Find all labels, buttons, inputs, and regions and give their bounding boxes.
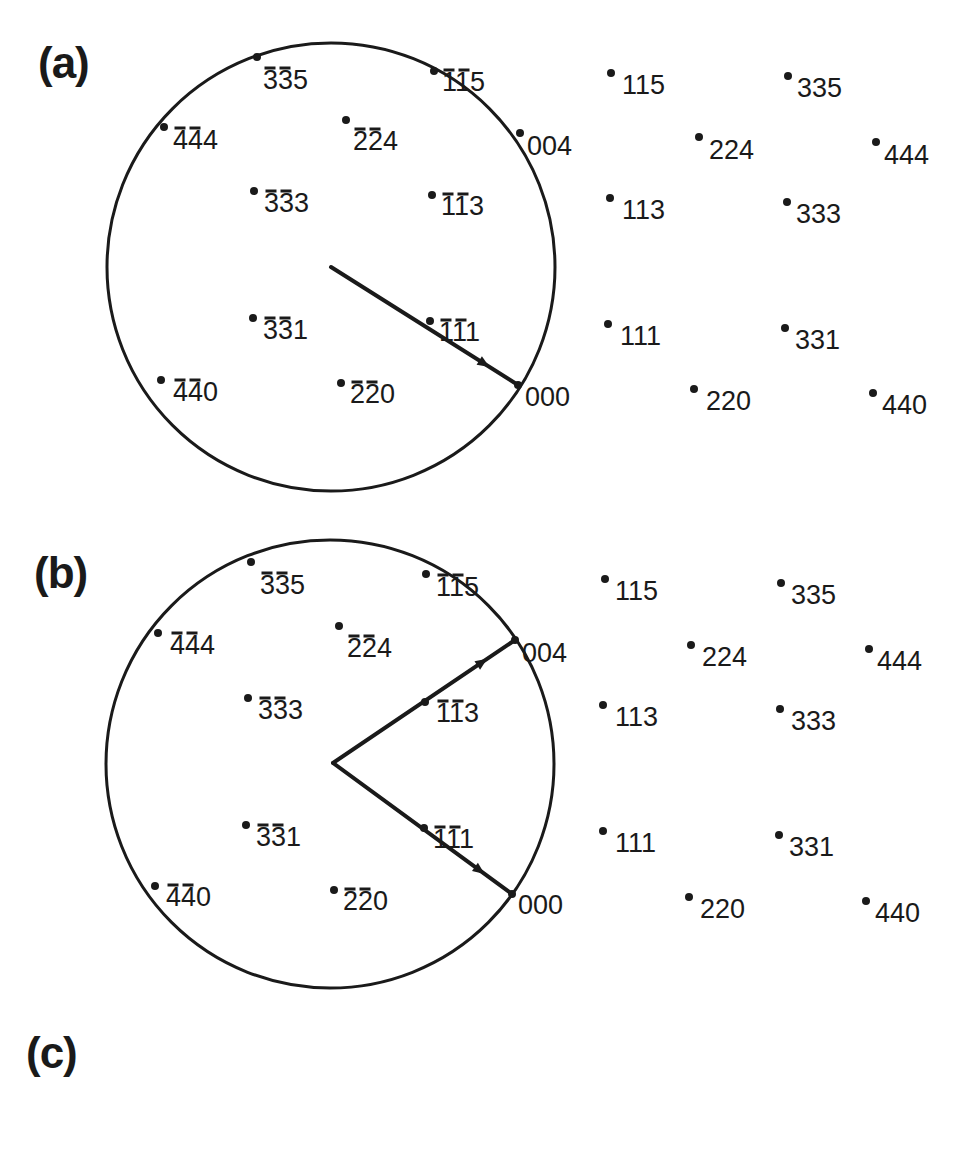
lattice-dot-icon (781, 324, 789, 332)
lattice-dot-icon (687, 641, 695, 649)
reciprocal-lattice-point: 440 (157, 376, 218, 407)
reciprocal-lattice-point: 220 (330, 886, 388, 916)
lattice-dot-icon (508, 890, 516, 898)
reciprocal-lattice-point: 333 (776, 705, 836, 736)
lattice-dot-icon (514, 381, 522, 389)
hkl-index-label: 224 (709, 135, 754, 165)
hkl-index-label: 220 (700, 894, 745, 924)
reciprocal-lattice-point: 113 (599, 701, 658, 732)
reciprocal-lattice-point: 335 (253, 53, 308, 95)
lattice-dot-icon (426, 317, 434, 325)
reciprocal-lattice-point: 111 (420, 824, 474, 854)
hkl-index-label: 444 (884, 140, 929, 170)
reciprocal-lattice-point: 113 (428, 191, 484, 221)
hkl-index-label: 224 (702, 642, 747, 672)
lattice-dot-icon (330, 886, 338, 894)
lattice-dot-icon (253, 53, 261, 61)
lattice-dot-icon (685, 893, 693, 901)
lattice-dot-icon (511, 636, 519, 644)
reciprocal-lattice-point: 004 (511, 636, 567, 668)
hkl-index-label: 220 (706, 386, 751, 416)
reciprocal-lattice-point: 224 (342, 116, 398, 156)
reciprocal-lattice-point: 111 (599, 827, 656, 858)
reciprocal-lattice-point: 111 (604, 320, 661, 351)
lattice-dot-icon (607, 69, 615, 77)
lattice-dot-icon (604, 320, 612, 328)
reciprocal-lattice-point: 333 (244, 694, 303, 725)
hkl-index-label: 335 (791, 580, 836, 610)
lattice-dot-icon (862, 897, 870, 905)
reciprocal-lattice-point: 220 (685, 893, 745, 924)
lattice-dot-icon (775, 831, 783, 839)
reciprocal-lattice-point: 115 (422, 570, 479, 602)
lattice-dot-icon (784, 72, 792, 80)
lattice-dot-icon (250, 187, 258, 195)
ewald-construction-figure: 3351154442240043331133311114402200001153… (0, 0, 961, 1168)
hkl-index-label: 000 (518, 890, 563, 920)
lattice-dot-icon (157, 376, 165, 384)
reciprocal-lattice-point: 220 (690, 385, 751, 416)
hkl-index-label: 113 (622, 195, 665, 225)
reciprocal-lattice-point: 333 (250, 187, 309, 218)
reciprocal-lattice-point: 220 (337, 379, 395, 409)
reciprocal-lattice-point: 444 (154, 629, 215, 660)
lattice-dot-icon (244, 694, 252, 702)
panel-a-diagram: 3351154442240043331133311114402200001153… (107, 43, 929, 491)
hkl-index-label: 115 (615, 576, 658, 606)
reciprocal-lattice-point: 224 (687, 641, 747, 672)
reciprocal-lattice-point: 444 (865, 645, 922, 676)
hkl-index-label: 440 (882, 390, 927, 420)
lattice-dot-icon (869, 389, 877, 397)
hkl-index-label: 000 (525, 382, 570, 412)
reciprocal-lattice-point: 331 (242, 821, 301, 852)
lattice-dot-icon (606, 194, 614, 202)
hkl-index-label: 004 (527, 131, 572, 161)
hkl-index-label: 113 (615, 702, 658, 732)
reciprocal-lattice-point: 113 (606, 194, 665, 225)
wave-vector-line (331, 267, 518, 385)
reciprocal-lattice-point: 331 (249, 314, 308, 345)
lattice-dot-icon (599, 701, 607, 709)
hkl-index-label: 335 (797, 73, 842, 103)
reciprocal-lattice-point: 331 (781, 324, 840, 355)
lattice-dot-icon (601, 575, 609, 583)
reciprocal-lattice-point: 335 (777, 579, 836, 610)
lattice-dot-icon (783, 198, 791, 206)
reciprocal-lattice-point: 440 (862, 897, 920, 928)
lattice-dot-icon (430, 67, 438, 75)
reciprocal-lattice-point: 335 (784, 72, 842, 103)
reciprocal-lattice-point: 000 (508, 890, 563, 920)
reciprocal-lattice-point: 444 (872, 138, 929, 170)
panel-b-diagram: 3351154442240043331133311114402200001153… (106, 540, 922, 988)
lattice-dot-icon (872, 138, 880, 146)
hkl-index-label: 333 (796, 199, 841, 229)
lattice-dot-icon (777, 579, 785, 587)
lattice-dot-icon (335, 622, 343, 630)
hkl-index-label: 111 (620, 321, 661, 351)
lattice-dot-icon (160, 123, 168, 131)
lattice-dot-icon (516, 129, 524, 137)
reciprocal-lattice-point: 444 (160, 123, 218, 155)
hkl-index-label: 440 (875, 898, 920, 928)
lattice-dot-icon (422, 570, 430, 578)
lattice-dot-icon (420, 824, 428, 832)
lattice-dot-icon (695, 133, 703, 141)
reciprocal-lattice-point: 440 (869, 389, 927, 420)
reciprocal-lattice-point: 440 (151, 882, 211, 912)
lattice-dot-icon (337, 379, 345, 387)
reciprocal-lattice-point: 224 (335, 622, 392, 663)
lattice-dot-icon (776, 705, 784, 713)
reciprocal-lattice-point: 115 (607, 69, 665, 100)
lattice-dot-icon (242, 821, 250, 829)
lattice-dot-icon (154, 629, 162, 637)
lattice-dot-icon (151, 882, 159, 890)
lattice-dot-icon (249, 314, 257, 322)
reciprocal-lattice-point: 113 (421, 698, 479, 728)
lattice-dot-icon (690, 385, 698, 393)
hkl-index-label: 331 (795, 325, 840, 355)
hkl-index-label: 331 (789, 832, 834, 862)
hkl-index-label: 115 (622, 70, 665, 100)
lattice-dot-icon (599, 827, 607, 835)
reciprocal-lattice-point: 333 (783, 198, 841, 229)
hkl-index-label: 444 (877, 646, 922, 676)
